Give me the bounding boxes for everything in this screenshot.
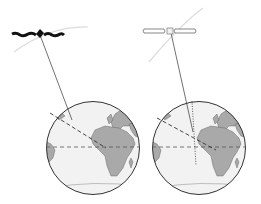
- satellite-dark-icon: [12, 29, 64, 38]
- globe-right: [139, 101, 249, 195]
- satellite-diagram: [0, 0, 261, 204]
- orbit-arc-left: [14, 27, 88, 52]
- sight-line-left: [40, 35, 72, 120]
- satellite-outline-icon: [143, 28, 196, 34]
- globe-left: [33, 102, 143, 195]
